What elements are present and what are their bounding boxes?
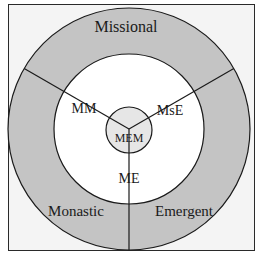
label-me: ME	[119, 171, 140, 186]
label-mm: MM	[72, 101, 97, 116]
label-mse: MsE	[157, 103, 183, 118]
concentric-diagram: Missional Monastic Emergent MM MsE ME ME…	[0, 0, 266, 265]
label-missional: Missional	[94, 18, 158, 35]
label-emergent: Emergent	[155, 203, 214, 219]
label-mem: MEM	[115, 131, 144, 145]
label-monastic: Monastic	[48, 203, 104, 219]
